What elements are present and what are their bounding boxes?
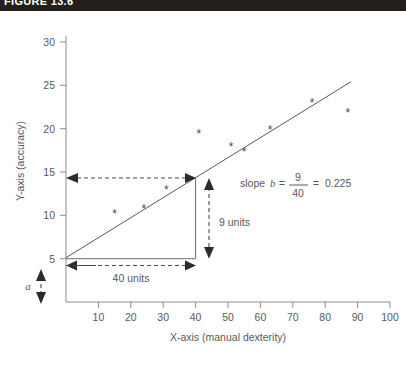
scatter-points: * * * * * * * * *	[112, 96, 350, 221]
scatter-plot-chart: 5 10 15 20 25 30 10 20 30 40 50 60	[0, 11, 406, 365]
slope-symbol-label: b	[270, 177, 276, 189]
y-axis-ticks	[60, 42, 66, 259]
slope-equals-label: =	[279, 177, 285, 189]
data-point: *	[112, 207, 117, 221]
figure-number-label: FIGURE 13.6	[4, 0, 73, 7]
rise-units-label: 9 units	[219, 216, 250, 228]
x-tick-label: 90	[352, 311, 364, 323]
x-axis-ticks	[98, 302, 390, 308]
data-point: *	[346, 106, 351, 120]
y-tick-label: 15	[43, 166, 55, 178]
y-axis-tick-labels: 5 10 15 20 25 30	[43, 36, 55, 265]
x-tick-label: 60	[255, 311, 267, 323]
y-axis-title: Y-axis (accuracy)	[14, 121, 26, 201]
y-tick-label: 10	[43, 209, 55, 221]
run-units-label: 40 units	[113, 272, 150, 284]
slope-prefix-label: slope	[240, 177, 265, 189]
data-point: *	[268, 123, 273, 137]
y-tick-label: 25	[43, 79, 55, 91]
intercept-arrow	[36, 269, 46, 304]
x-tick-label: 70	[287, 311, 299, 323]
slope-formula: slope b = 9 40 = 0.225	[240, 171, 351, 199]
x-tick-label: 100	[381, 311, 399, 323]
data-point: *	[196, 127, 201, 141]
slope-denominator-label: 40	[292, 187, 304, 199]
x-axis-tick-labels: 10 20 30 40 50 60 70 80 90 100	[93, 311, 399, 323]
y-tick-label: 20	[43, 123, 55, 135]
data-point: *	[229, 140, 234, 154]
slope-equals2-label: =	[313, 177, 319, 189]
run-horizontal-arrow	[66, 261, 196, 271]
intercept-label: a	[25, 280, 31, 292]
data-point: *	[242, 145, 247, 159]
y-tick-label: 5	[49, 253, 55, 265]
data-point: *	[141, 202, 146, 216]
x-tick-label: 50	[222, 311, 234, 323]
x-tick-label: 30	[157, 311, 169, 323]
x-tick-label: 40	[190, 311, 202, 323]
slope-numerator-label: 9	[295, 171, 301, 183]
rise-vertical-arrow	[204, 178, 214, 259]
data-point: *	[164, 183, 169, 197]
x-axis-title: X-axis (manual dexterity)	[170, 331, 286, 343]
slope-value-label: 0.225	[325, 177, 351, 189]
figure-header-bar: FIGURE 13.6	[0, 0, 406, 11]
rise-horizontal-arrow	[66, 173, 196, 183]
data-point: *	[310, 96, 315, 110]
x-tick-label: 10	[93, 311, 105, 323]
x-tick-label: 20	[125, 311, 137, 323]
y-tick-label: 30	[43, 36, 55, 48]
figure-page: FIGURE 13.6 5 10 15 20 25 30	[0, 0, 406, 365]
x-tick-label: 80	[319, 311, 331, 323]
